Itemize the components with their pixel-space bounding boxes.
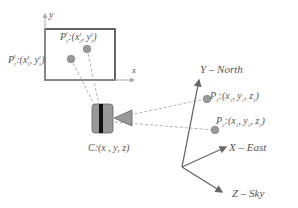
world-point-p2 <box>211 126 219 134</box>
world-p1-label: P1:(x1, y1, z1) <box>209 90 260 103</box>
image-x-axis-label: x <box>131 65 136 75</box>
world-x-axis-label: X – East <box>228 141 267 153</box>
camera-projection-diagram: y x PI1:(xI1, yI1) PI2:(xI2, yI2) C:(x ,… <box>0 0 298 208</box>
image-point-p2 <box>83 45 91 53</box>
world-z-axis-label: Z – Sky <box>232 187 265 199</box>
image-y-axis-label: y <box>48 9 54 20</box>
image-point-p1 <box>67 55 75 63</box>
image-p2-label: PI2:(xI2, yI2) <box>59 31 97 44</box>
world-p2-label: P2:(x2, y2, z2) <box>215 115 266 128</box>
camera-label: C:(x , y, z) <box>88 142 130 154</box>
camera-icon <box>92 104 132 133</box>
world-y-axis-label: Y – North <box>200 63 243 75</box>
image-p1-label: PI1:(xI1, yI1) <box>7 54 45 67</box>
